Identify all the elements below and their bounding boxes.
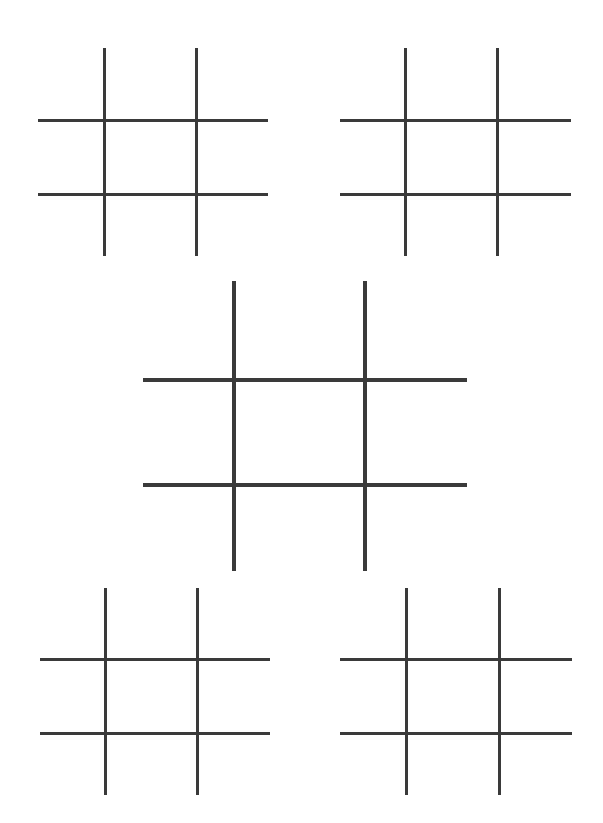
cell-center-r2-c1[interactable] bbox=[238, 489, 361, 567]
cell-top-right-r1-c2[interactable] bbox=[500, 123, 568, 191]
grid-line-vertical bbox=[195, 48, 198, 256]
grid-line-vertical bbox=[103, 48, 106, 256]
cell-top-left-r2-c1[interactable] bbox=[107, 197, 193, 253]
cell-center-r0-c2[interactable] bbox=[369, 285, 463, 376]
grid-line-horizontal bbox=[340, 658, 572, 661]
cell-top-right-r0-c1[interactable] bbox=[408, 51, 494, 117]
cell-center-r2-c0[interactable] bbox=[147, 489, 230, 567]
cell-top-left-r0-c1[interactable] bbox=[107, 51, 193, 117]
cell-center-r1-c0[interactable] bbox=[147, 384, 230, 481]
grid-line-horizontal bbox=[38, 193, 268, 196]
cell-bottom-left-r2-c2[interactable] bbox=[200, 736, 267, 792]
cell-top-right-r0-c0[interactable] bbox=[343, 51, 402, 117]
cell-bottom-right-r2-c2[interactable] bbox=[502, 736, 569, 792]
grid-line-horizontal bbox=[340, 119, 571, 122]
cell-bottom-left-r0-c1[interactable] bbox=[108, 591, 194, 656]
grid-line-horizontal bbox=[40, 658, 270, 661]
cell-bottom-right-r2-c0[interactable] bbox=[343, 736, 403, 792]
grid-line-vertical bbox=[498, 588, 501, 795]
cell-top-right-r0-c2[interactable] bbox=[500, 51, 568, 117]
cell-top-right-r1-c1[interactable] bbox=[408, 123, 494, 191]
cell-center-r0-c0[interactable] bbox=[147, 285, 230, 376]
cell-bottom-left-r0-c2[interactable] bbox=[200, 591, 267, 656]
grid-line-horizontal bbox=[40, 732, 270, 735]
cell-top-right-r2-c2[interactable] bbox=[500, 197, 568, 253]
cell-bottom-left-r1-c2[interactable] bbox=[200, 662, 267, 730]
cell-top-right-r2-c0[interactable] bbox=[343, 197, 402, 253]
cell-top-left-r1-c2[interactable] bbox=[199, 123, 265, 191]
cell-bottom-right-r1-c0[interactable] bbox=[343, 662, 403, 730]
cell-top-left-r2-c0[interactable] bbox=[41, 197, 101, 253]
cell-center-r2-c2[interactable] bbox=[369, 489, 463, 567]
cell-bottom-left-r1-c0[interactable] bbox=[43, 662, 102, 730]
cell-center-r0-c1[interactable] bbox=[238, 285, 361, 376]
grid-line-vertical bbox=[232, 281, 236, 571]
cell-bottom-right-r2-c1[interactable] bbox=[409, 736, 496, 792]
grid-line-vertical bbox=[404, 48, 407, 256]
cell-top-left-r1-c0[interactable] bbox=[41, 123, 101, 191]
cell-bottom-right-r0-c0[interactable] bbox=[343, 591, 403, 656]
cell-bottom-left-r2-c1[interactable] bbox=[108, 736, 194, 792]
cell-bottom-left-r1-c1[interactable] bbox=[108, 662, 194, 730]
cell-bottom-right-r1-c2[interactable] bbox=[502, 662, 569, 730]
grid-line-horizontal bbox=[143, 378, 467, 382]
grid-line-vertical bbox=[363, 281, 367, 571]
cell-bottom-left-r2-c0[interactable] bbox=[43, 736, 102, 792]
grid-line-vertical bbox=[104, 588, 107, 795]
grid-line-vertical bbox=[196, 588, 199, 795]
cell-bottom-right-r0-c1[interactable] bbox=[409, 591, 496, 656]
cell-bottom-right-r1-c1[interactable] bbox=[409, 662, 496, 730]
cell-center-r1-c1[interactable] bbox=[238, 384, 361, 481]
grid-line-vertical bbox=[496, 48, 499, 256]
grid-line-horizontal bbox=[143, 483, 467, 487]
cell-top-left-r2-c2[interactable] bbox=[199, 197, 265, 253]
cell-top-right-r1-c0[interactable] bbox=[343, 123, 402, 191]
grid-line-horizontal bbox=[340, 193, 571, 196]
cell-top-left-r0-c0[interactable] bbox=[41, 51, 101, 117]
cell-top-left-r1-c1[interactable] bbox=[107, 123, 193, 191]
grid-line-horizontal bbox=[38, 119, 268, 122]
grid-line-horizontal bbox=[340, 732, 572, 735]
grid-line-vertical bbox=[405, 588, 408, 795]
cell-top-right-r2-c1[interactable] bbox=[408, 197, 494, 253]
cell-top-left-r0-c2[interactable] bbox=[199, 51, 265, 117]
cell-bottom-left-r0-c0[interactable] bbox=[43, 591, 102, 656]
cell-center-r1-c2[interactable] bbox=[369, 384, 463, 481]
cell-bottom-right-r0-c2[interactable] bbox=[502, 591, 569, 656]
